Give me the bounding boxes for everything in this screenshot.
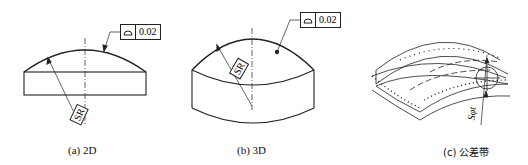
surface-profile-icon bbox=[121, 25, 136, 39]
feature-control-frame-a: 0.02 bbox=[120, 24, 161, 40]
panel-b-drawing bbox=[192, 20, 314, 123]
tolerance-value: 0.02 bbox=[136, 25, 160, 39]
feature-control-frame-b: 0.02 bbox=[300, 12, 341, 28]
tolerance-value: 0.02 bbox=[316, 13, 340, 27]
caption-a: (a) 2D bbox=[68, 144, 96, 156]
figure-drawing bbox=[0, 0, 528, 165]
caption-b: (b) 3D bbox=[237, 144, 266, 156]
panel-c-drawing bbox=[372, 42, 510, 125]
surface-profile-icon bbox=[301, 13, 316, 27]
caption-c: (c) 公差带 bbox=[443, 144, 489, 159]
sphi-t-label: Sφt bbox=[466, 106, 478, 120]
